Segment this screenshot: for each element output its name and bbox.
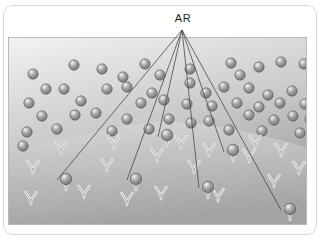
antigen-sphere <box>136 98 146 108</box>
antigen-sphere <box>226 58 236 68</box>
bound-antigen-sphere <box>60 173 72 185</box>
antigen-sphere <box>257 126 267 136</box>
antigen-sphere <box>244 110 254 120</box>
membrane-scene <box>9 38 306 224</box>
antigen-sphere <box>275 98 285 108</box>
antigen-sphere <box>140 59 150 69</box>
antigen-sphere <box>276 57 286 67</box>
bound-antigen-sphere <box>227 144 239 156</box>
antigen-sphere <box>219 82 229 92</box>
antigen-sphere <box>28 69 38 79</box>
antigen-sphere <box>24 98 34 108</box>
bound-antigen-sphere <box>202 181 214 193</box>
antigen-sphere <box>232 98 242 108</box>
antigen-sphere <box>185 78 195 88</box>
antigen-sphere <box>254 102 264 112</box>
antigen-sphere <box>201 88 211 98</box>
antigen-sphere <box>118 72 128 82</box>
antigen-sphere <box>182 99 192 109</box>
antigen-sphere <box>52 124 62 134</box>
antigen-sphere <box>299 59 306 69</box>
antigen-sphere <box>22 127 32 137</box>
antigen-sphere <box>76 96 86 106</box>
antigen-sphere <box>204 116 214 126</box>
antigen-sphere <box>224 125 234 135</box>
antigen-sphere <box>91 108 101 118</box>
antigen-sphere <box>41 84 51 94</box>
antigen-sphere <box>147 88 157 98</box>
antigen-sphere <box>155 70 165 80</box>
antigen-sphere <box>295 128 305 138</box>
antigen-sphere <box>263 90 273 100</box>
antigen-sphere <box>18 141 28 151</box>
bound-antigen-sphere <box>130 173 142 185</box>
bound-antigen-sphere <box>161 129 173 141</box>
antigen-sphere <box>164 114 174 124</box>
antigen-sphere <box>97 64 107 74</box>
antigen-sphere <box>244 83 254 93</box>
antigen-sphere <box>269 115 279 125</box>
antigen-sphere <box>59 84 69 94</box>
illustration-panel <box>8 37 307 225</box>
antigen-sphere <box>186 118 196 128</box>
antigen-sphere <box>122 82 132 92</box>
antigen-sphere <box>102 84 112 94</box>
antigen-sphere <box>254 62 264 72</box>
antigen-sphere <box>107 126 117 136</box>
antigen-sphere <box>207 101 217 111</box>
bound-antigen-sphere <box>284 203 296 215</box>
antigen-sphere <box>69 60 79 70</box>
antigen-sphere <box>70 110 80 120</box>
antigen-sphere <box>235 70 245 80</box>
antigen-sphere <box>144 124 154 134</box>
antigen-sphere <box>159 95 169 105</box>
antigen-sphere <box>288 111 298 121</box>
antigen-sphere <box>185 64 195 74</box>
antigen-sphere <box>287 86 297 96</box>
antigen-receptor-label: AR <box>165 12 201 24</box>
antigen-sphere <box>122 114 132 124</box>
antigen-sphere <box>37 111 47 121</box>
figure-root: AR <box>0 0 322 240</box>
